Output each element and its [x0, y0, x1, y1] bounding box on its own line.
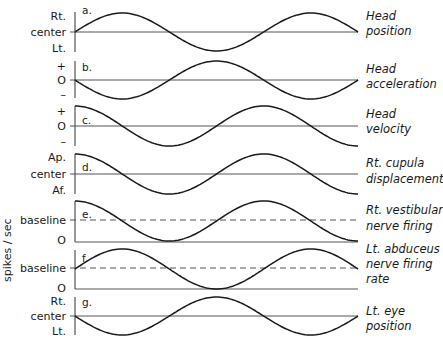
panel-c-caption-1: Head — [366, 107, 397, 121]
panel-b-label-mid: O — [57, 74, 66, 87]
panel-g-caption-1: Lt. eye — [366, 304, 405, 318]
panel-b-letter: b. — [82, 61, 92, 73]
panel-g-label-top: Rt. — [51, 295, 66, 308]
panel-a: Rt. center Lt. a. Head position — [31, 4, 412, 55]
panel-d-label-mid: center — [31, 168, 67, 181]
panel-g-label-mid: center — [31, 310, 67, 323]
panel-c-letter: c. — [82, 114, 91, 126]
panel-d-label-top: Ap. — [48, 151, 66, 164]
panel-a-label-bot: Lt. — [52, 42, 66, 55]
panel-b-label-top: + — [57, 60, 66, 73]
panel-g-letter: g. — [82, 296, 92, 308]
panel-g-caption-2: position — [365, 319, 412, 333]
panel-b-caption-2: acceleration — [366, 77, 437, 91]
panel-a-letter: a. — [82, 4, 92, 16]
panel-d-letter: d. — [82, 161, 92, 173]
panel-a-caption-1: Head — [366, 9, 397, 23]
panel-e-caption-2: nerve firing — [366, 219, 433, 233]
panel-e-label-zero: O — [57, 234, 66, 247]
panel-e-caption-1: Rt. vestibular — [366, 203, 443, 217]
panel-e-label-baseline: baseline — [20, 214, 66, 227]
side-axis-label: spikes / sec — [1, 219, 14, 283]
panel-g-label-bot: Lt. — [52, 325, 66, 338]
vestibular-nerve-firing-wave — [75, 201, 358, 241]
panel-g: Rt. center Lt. g. Lt. eye position — [31, 295, 412, 338]
panel-d-label-bot: Af. — [52, 184, 66, 197]
panel-c: + O – c. Head velocity — [57, 105, 411, 148]
panel-f-caption-2: nerve firing — [366, 257, 433, 271]
panel-c-label-mid: O — [57, 120, 66, 133]
panel-f-label-baseline: baseline — [20, 262, 66, 275]
vestibulo-ocular-diagram: spikes / sec Rt. center Lt. a. Head posi… — [0, 0, 443, 344]
panel-a-label-top: Rt. — [51, 10, 66, 23]
panel-f-caption-3: rate — [366, 272, 389, 286]
panel-e-letter: e. — [82, 208, 92, 220]
panel-e: baseline O e. Rt. vestibular nerve firin… — [20, 201, 443, 247]
panel-c-label-top: + — [57, 105, 66, 118]
panel-d: Ap. center Af. d. Rt. cupula displacemen… — [31, 151, 443, 197]
panel-f: baseline O f. Lt. abduceus nerve firing … — [20, 242, 440, 295]
panel-a-caption-2: position — [365, 24, 412, 38]
panel-f-caption-1: Lt. abduceus — [366, 242, 440, 256]
panel-b-caption-1: Head — [366, 62, 397, 76]
abducens-nerve-firing-wave — [75, 249, 358, 289]
panel-a-label-mid: center — [31, 26, 67, 39]
panel-b: + O – b. Head acceleration — [57, 60, 437, 101]
panel-d-caption-2: displacement — [366, 172, 443, 186]
panel-b-label-bot: – — [61, 88, 67, 101]
panel-d-caption-1: Rt. cupula — [366, 156, 424, 170]
panel-c-label-bot: – — [61, 135, 67, 148]
panel-f-label-zero: O — [57, 282, 66, 295]
panel-c-caption-2: velocity — [366, 122, 411, 136]
